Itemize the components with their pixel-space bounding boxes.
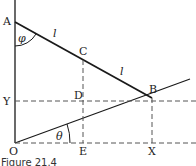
label-Y: Y (2, 95, 11, 108)
geometry-diagram: A C B Y D O E X l l φ θ Figure 21.4 (0, 0, 196, 166)
label-D: D (74, 89, 83, 102)
label-A: A (2, 15, 12, 28)
label-length-CB: l (120, 65, 124, 78)
label-angle-theta: θ (56, 130, 63, 143)
figure-caption: Figure 21.4 (1, 157, 57, 166)
label-C: C (79, 45, 87, 58)
label-B: B (149, 83, 157, 96)
angle-theta-arc (67, 124, 70, 143)
label-E: E (79, 145, 87, 158)
line-OB (15, 79, 190, 143)
label-angle-phi: φ (18, 32, 26, 45)
label-length-AC: l (53, 27, 57, 40)
label-X: X (148, 145, 156, 158)
